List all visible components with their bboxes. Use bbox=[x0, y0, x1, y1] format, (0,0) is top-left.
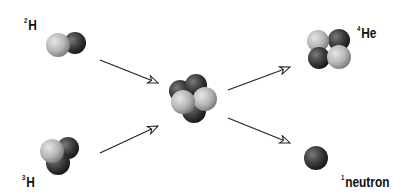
neutron-sphere bbox=[308, 47, 330, 69]
fusion-diagram bbox=[0, 0, 405, 195]
proton-sphere bbox=[40, 139, 64, 163]
proton-sphere bbox=[193, 87, 217, 111]
element-symbol: H bbox=[28, 17, 37, 33]
free-neutron bbox=[304, 146, 328, 170]
particle-name: neutron bbox=[345, 174, 389, 190]
proton-sphere bbox=[327, 45, 351, 69]
label-deuterium: 2H bbox=[24, 14, 37, 32]
helium-4-nucleus bbox=[307, 29, 351, 69]
proton-sphere bbox=[46, 33, 70, 57]
mass-number: 3 bbox=[22, 174, 25, 181]
arrow-tritium-to-compound bbox=[100, 126, 158, 153]
element-symbol: H bbox=[26, 174, 35, 190]
tritium-nucleus bbox=[40, 137, 79, 175]
arrow-compound-to-neutron bbox=[228, 118, 290, 143]
proton-sphere bbox=[171, 90, 195, 114]
label-tritium: 3H bbox=[22, 171, 35, 189]
label-neutron: 1neutron bbox=[341, 171, 389, 189]
arrow-compound-to-helium bbox=[228, 67, 290, 90]
mass-number: 1 bbox=[341, 174, 344, 181]
deuterium-nucleus bbox=[46, 32, 86, 57]
mass-number: 2 bbox=[24, 17, 27, 24]
compound-nucleus bbox=[169, 74, 217, 123]
element-symbol: He bbox=[361, 25, 376, 41]
label-helium-4: 4He bbox=[357, 22, 376, 40]
arrow-deuterium-to-compound bbox=[100, 60, 158, 83]
mass-number: 4 bbox=[357, 25, 360, 32]
